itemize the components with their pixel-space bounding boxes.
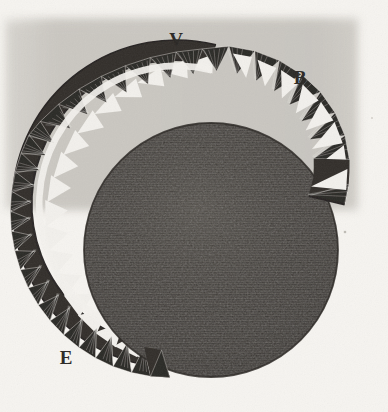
engraving-figure: V B E bbox=[0, 0, 388, 412]
paper-grain-overlay bbox=[0, 0, 388, 412]
engraving-canvas: V B E bbox=[0, 0, 388, 412]
